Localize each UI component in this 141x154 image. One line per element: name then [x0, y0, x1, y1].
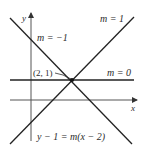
x-axis-label: x — [130, 103, 135, 113]
label-slope-positive-one: m = 1 — [100, 13, 124, 24]
point-label: (2, 1) — [33, 68, 53, 78]
intersection-point-marker — [70, 78, 74, 82]
y-axis-label: y — [21, 13, 26, 23]
label-slope-zero: m = 0 — [107, 67, 131, 78]
slope-family-diagram: y x m = 1 m = −1 m = 0 (2, 1) y − 1 = m(… — [0, 0, 141, 154]
diagram-canvas: y x m = 1 m = −1 m = 0 (2, 1) y − 1 = m(… — [0, 0, 141, 154]
label-slope-negative-one: m = −1 — [37, 32, 68, 43]
point-slope-equation: y − 1 = m(x − 2) — [36, 131, 106, 143]
